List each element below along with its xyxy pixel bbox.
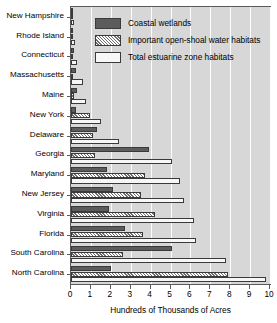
y-axis-label-florida: Florida [39,230,64,238]
bar-total-estuarine-zone-habitats [71,159,172,164]
legend-label-total-estuarine: Total estuarine zone habitats [128,53,234,61]
bar-coastal-wetlands [71,127,97,132]
state-bar-group [71,246,270,263]
bar-coastal-wetlands [71,48,74,53]
bar-open-shoal-water-habitats [71,252,123,257]
bar-coastal-wetlands [71,88,77,93]
legend-entry-open-shoal: Important open-shoal water habitats [95,32,269,49]
state-bar-group [71,206,270,223]
y-axis-label-new-jersey: New Jersey [22,190,64,198]
bar-open-shoal-water-habitats [71,212,155,217]
bar-open-shoal-water-habitats [71,34,73,39]
legend-entry-total-estuarine: Total estuarine zone habitats [95,49,269,66]
bar-total-estuarine-zone-habitats [71,198,184,203]
bar-coastal-wetlands [71,266,111,271]
gridline [270,7,271,284]
chart-legend: Coastal wetlands Important open-shoal wa… [95,15,269,66]
bar-total-estuarine-zone-habitats [71,277,266,282]
bar-total-estuarine-zone-habitats [71,79,83,84]
bar-open-shoal-water-habitats [71,133,93,138]
y-axis-label-connecticut: Connecticut [21,51,64,59]
x-axis-tick-label: 9 [247,290,252,298]
x-axis-tick-label: 10 [264,290,273,298]
bar-coastal-wetlands [71,147,149,152]
state-bar-group [71,127,270,144]
y-axis-label-georgia: Georgia [35,150,64,158]
y-axis-labels: New HampshireRhode IslandConnecticutMass… [0,6,68,285]
y-axis-label-rhode-island: Rhode Island [16,32,64,40]
x-axis: Hundreds of Thousands of Acres 012345678… [70,285,271,323]
y-axis-label-maine: Maine [42,91,64,99]
state-bar-group [71,88,270,105]
x-axis-tick-label: 0 [68,290,73,298]
bar-total-estuarine-zone-habitats [71,238,196,243]
x-axis-tick-label: 6 [187,290,192,298]
y-axis-label-south-carolina: South Carolina [10,249,64,257]
bar-coastal-wetlands [71,187,113,192]
legend-label-open-shoal: Important open-shoal water habitats [128,36,260,44]
bar-total-estuarine-zone-habitats [71,178,180,183]
estuarine-habitat-bar-chart: New HampshireRhode IslandConnecticutMass… [0,0,277,323]
bar-total-estuarine-zone-habitats [71,119,101,124]
bar-open-shoal-water-habitats [71,93,74,98]
bar-open-shoal-water-habitats [71,14,73,19]
bar-coastal-wetlands [71,28,73,33]
x-axis-tick-label: 4 [147,290,152,298]
x-axis-tick-label: 2 [107,290,112,298]
x-axis-tick-label: 3 [127,290,132,298]
legend-swatch-total-estuarine [95,52,121,63]
y-axis-label-new-york: New York [30,111,64,119]
bar-total-estuarine-zone-habitats [71,99,86,104]
legend-swatch-open-shoal [95,35,121,46]
y-axis-label-delaware: Delaware [30,131,64,139]
state-bar-group [71,107,270,124]
bar-total-estuarine-zone-habitats [71,139,119,144]
bar-open-shoal-water-habitats [71,192,141,197]
y-axis-label-massachusetts: Massachusetts [10,71,64,79]
bar-total-estuarine-zone-habitats [71,20,74,25]
x-axis-tick-label: 8 [227,290,232,298]
bar-open-shoal-water-habitats [71,54,73,59]
bar-coastal-wetlands [71,206,109,211]
y-axis-label-north-carolina: North Carolina [12,269,64,277]
bar-coastal-wetlands [71,68,76,73]
x-axis-tick-label: 7 [207,290,212,298]
state-bar-group [71,68,270,85]
plot-area: Coastal wetlands Important open-shoal wa… [70,6,271,285]
bar-open-shoal-water-habitats [71,153,95,158]
bar-open-shoal-water-habitats [71,74,73,79]
bar-open-shoal-water-habitats [71,232,143,237]
bar-coastal-wetlands [71,167,107,172]
y-axis-label-new-hampshire: New Hampshire [6,12,64,20]
state-bar-group [71,226,270,243]
bar-coastal-wetlands [71,8,73,13]
bar-coastal-wetlands [71,226,125,231]
bar-total-estuarine-zone-habitats [71,40,75,45]
y-axis-label-maryland: Maryland [31,170,64,178]
state-bar-group [71,167,270,184]
state-bar-group [71,266,270,283]
legend-label-coastal-wetlands: Coastal wetlands [128,19,191,27]
x-axis-tick-label: 5 [167,290,172,298]
legend-swatch-coastal-wetlands [95,18,121,29]
legend-entry-coastal-wetlands: Coastal wetlands [95,15,269,32]
bar-total-estuarine-zone-habitats [71,60,77,65]
x-axis-tick-label: 1 [88,290,93,298]
bar-total-estuarine-zone-habitats [71,218,194,223]
y-axis-label-virginia: Virginia [37,210,64,218]
bar-open-shoal-water-habitats [71,272,228,277]
x-axis-title: Hundreds of Thousands of Acres [70,305,271,315]
bar-coastal-wetlands [71,246,172,251]
bar-open-shoal-water-habitats [71,113,90,118]
bar-total-estuarine-zone-habitats [71,258,226,263]
bar-open-shoal-water-habitats [71,173,145,178]
state-bar-group [71,147,270,164]
state-bar-group [71,187,270,204]
bar-coastal-wetlands [71,107,76,112]
